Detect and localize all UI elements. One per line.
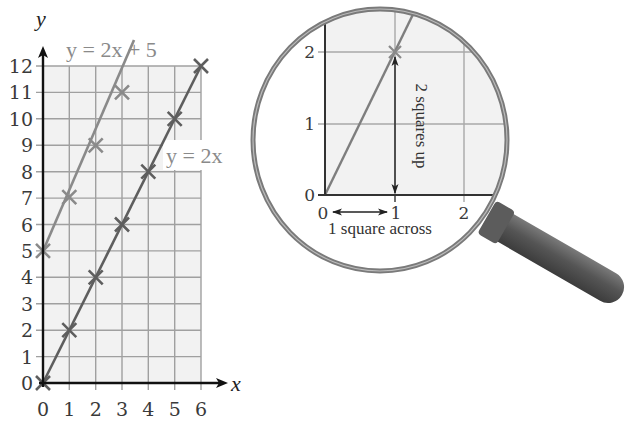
svg-text:6: 6 xyxy=(21,214,33,236)
svg-text:5: 5 xyxy=(169,398,181,420)
svg-text:0: 0 xyxy=(318,203,329,223)
magnifier-handle xyxy=(477,201,631,312)
y-axis-label: y xyxy=(34,6,46,31)
svg-text:9: 9 xyxy=(21,134,33,156)
svg-text:3: 3 xyxy=(21,293,33,315)
x-axis-label: x xyxy=(230,371,241,396)
svg-text:3: 3 xyxy=(116,398,128,420)
svg-text:1: 1 xyxy=(21,346,33,368)
equation-label-y-2x-plus-5: y = 2x + 5 xyxy=(66,37,157,62)
diagram-canvas: y x 0 1 2 3 4 5 6 7 8 9 10 11 12 0 1 2 3… xyxy=(0,0,642,426)
up-annotation: 2 squares up xyxy=(412,84,431,169)
svg-text:0: 0 xyxy=(21,372,33,394)
svg-text:7: 7 xyxy=(21,187,33,209)
x-tick-labels: 0 1 2 3 4 5 6 xyxy=(37,398,207,420)
svg-text:2: 2 xyxy=(21,319,33,341)
main-graph: y x 0 1 2 3 4 5 6 7 8 9 10 11 12 0 1 2 3… xyxy=(9,6,241,420)
svg-text:2: 2 xyxy=(304,42,315,62)
svg-text:2: 2 xyxy=(90,398,102,420)
svg-text:0: 0 xyxy=(37,398,49,420)
y-tick-labels: 0 1 2 3 4 5 6 7 8 9 10 11 12 xyxy=(9,55,33,394)
svg-text:6: 6 xyxy=(195,398,207,420)
svg-text:2: 2 xyxy=(459,203,470,223)
svg-text:4: 4 xyxy=(142,398,154,420)
svg-text:4: 4 xyxy=(21,266,33,288)
svg-text:1: 1 xyxy=(304,114,315,134)
svg-text:5: 5 xyxy=(21,240,33,262)
magnifier: 0 1 2 0 1 2 1 square across 2 squares up xyxy=(253,0,631,311)
svg-text:12: 12 xyxy=(9,55,33,77)
across-annotation: 1 square across xyxy=(328,219,432,238)
svg-text:1: 1 xyxy=(63,398,75,420)
svg-text:8: 8 xyxy=(21,161,33,183)
svg-text:10: 10 xyxy=(9,108,33,130)
svg-text:0: 0 xyxy=(304,185,315,205)
equation-label-y-2x: y = 2x xyxy=(166,143,222,168)
svg-text:11: 11 xyxy=(9,81,33,103)
